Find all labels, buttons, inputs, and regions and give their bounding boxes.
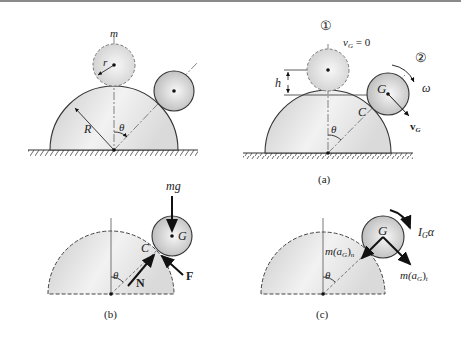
label-omega: ω (422, 81, 430, 95)
origin-dot (112, 148, 116, 152)
panel-b: mg G C N F θ (b) (48, 179, 193, 321)
label-m-aG-t: m(aG)t (400, 269, 429, 283)
label-vG-zero: vG = 0 (343, 36, 371, 50)
label-mg: mg (166, 179, 181, 193)
label-m-aG-n: m(aG)n (325, 245, 355, 259)
label-IG-alpha: IGα (417, 225, 435, 240)
label-vG: vG (410, 120, 421, 134)
label-N: N (136, 276, 145, 290)
origin-dot (326, 151, 330, 155)
caption-b: (b) (104, 308, 117, 321)
label-theta: θ (113, 269, 119, 281)
label-r: r (103, 56, 108, 68)
label-theta: θ (331, 123, 337, 135)
label-m: m (110, 27, 118, 39)
panel-a: ① vG = 0 ② h G C ω vG θ (a) (243, 18, 430, 186)
label-C: C (358, 105, 367, 119)
label-position-2: ② (415, 50, 427, 65)
origin-dot (321, 292, 325, 296)
origin-dot (109, 292, 113, 296)
caption-c: (c) (316, 308, 329, 321)
label-G: G (378, 223, 388, 238)
label-F: F (186, 269, 193, 283)
caption-a: (a) (318, 173, 331, 186)
label-position-1: ① (320, 18, 332, 33)
label-R: R (83, 122, 92, 136)
disk-center-dot (326, 68, 330, 72)
label-C: C (141, 241, 150, 255)
panel-top-left: m r R θ (28, 27, 198, 156)
disk-center-dot-2 (172, 89, 176, 93)
label-theta: θ (119, 121, 125, 133)
panel-c: G IGα m(aG)n m(aG)t θ (c) (261, 210, 435, 321)
label-G: G (178, 229, 187, 243)
diagram-canvas: m r R θ ① vG = 0 ② h G C ω vG θ (0, 0, 461, 337)
label-theta: θ (325, 269, 331, 281)
disk-center-G (170, 234, 174, 238)
label-G: G (377, 81, 387, 96)
label-h: h (275, 76, 281, 90)
